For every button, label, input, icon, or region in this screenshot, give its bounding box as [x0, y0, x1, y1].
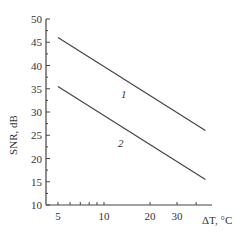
- snr-chart: 1015202530354045505102030 SNR, dB ΔT, °C…: [0, 0, 242, 234]
- svg-text:15: 15: [31, 176, 43, 188]
- svg-text:20: 20: [31, 153, 43, 165]
- series-2-label: 2: [118, 137, 124, 149]
- x-axis-label: ΔT, °C: [202, 214, 232, 226]
- series-line-2: [58, 86, 205, 179]
- svg-text:5: 5: [55, 210, 61, 222]
- svg-text:40: 40: [31, 60, 43, 72]
- series-1-label: 1: [121, 88, 127, 100]
- svg-text:10: 10: [99, 210, 111, 222]
- svg-text:30: 30: [171, 210, 183, 222]
- svg-text:30: 30: [31, 106, 43, 118]
- svg-text:20: 20: [145, 210, 157, 222]
- axes: 1015202530354045505102030: [31, 13, 212, 222]
- svg-text:35: 35: [31, 83, 43, 95]
- svg-text:50: 50: [31, 13, 43, 25]
- svg-text:10: 10: [31, 199, 43, 211]
- svg-text:25: 25: [31, 129, 43, 141]
- y-axis-label: SNR, dB: [7, 115, 19, 155]
- series-line-1: [58, 38, 205, 131]
- svg-text:45: 45: [31, 36, 43, 48]
